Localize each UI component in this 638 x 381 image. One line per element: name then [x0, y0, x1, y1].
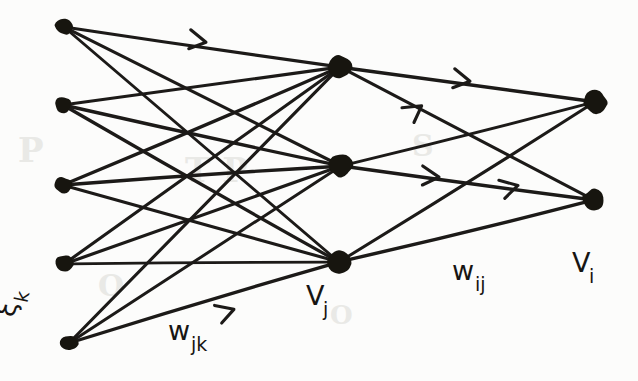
label-hidden-layer: Vj	[306, 280, 328, 320]
network-svg: ξkwjkVjwijVi	[0, 0, 638, 381]
label-output-layer: Vi	[572, 247, 594, 287]
label-weight-jk: wjk	[168, 315, 207, 355]
edge-direction-arrow	[452, 69, 472, 90]
label-weight-ij-subscript: ij	[475, 273, 486, 295]
network-diagram-figure: PT POSO ξkwjkVjwijVi	[0, 0, 638, 381]
output-node-i1	[583, 90, 608, 114]
output-node-i2	[582, 189, 603, 211]
hidden-node-j2	[329, 155, 354, 178]
label-input-layer: ξk	[0, 285, 34, 321]
label-weight-ij-symbol: w	[452, 255, 474, 286]
nodes-group	[54, 19, 608, 350]
label-output-layer-subscript: i	[589, 265, 594, 287]
label-hidden-layer-subscript: j	[322, 298, 328, 320]
label-weight-ij: wij	[452, 255, 486, 295]
label-input-layer-subscript: k	[10, 289, 34, 304]
hidden-node-j1	[328, 55, 353, 78]
input-node-k2	[55, 97, 71, 113]
input-node-k3	[54, 177, 72, 194]
label-weight-jk-symbol: w	[168, 315, 190, 346]
label-weight-jk-subscript: jk	[190, 333, 207, 355]
edge-direction-arrow	[215, 300, 237, 323]
